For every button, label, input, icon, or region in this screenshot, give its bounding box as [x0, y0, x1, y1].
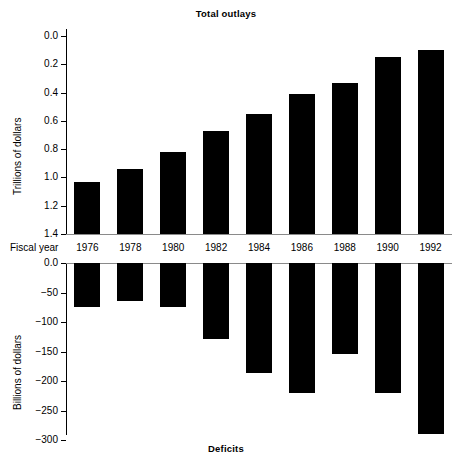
top-bar — [117, 169, 143, 234]
bottom-y-tick-label: −100 — [20, 317, 58, 327]
top-y-tick-label: 0.4 — [28, 88, 58, 98]
bottom-chart-title: Deficits — [166, 443, 286, 454]
top-bar — [418, 50, 444, 234]
top-bar — [160, 152, 186, 234]
top-bar — [246, 114, 272, 234]
bottom-bar — [418, 263, 444, 434]
bottom-bar — [117, 263, 143, 301]
top-y-tick-label: 0.0 — [28, 31, 58, 41]
top-y-axis-line — [66, 29, 67, 235]
bottom-y-tick-label: 0.0 — [20, 258, 58, 268]
top-bar — [332, 83, 358, 234]
bottom-bar — [74, 263, 100, 307]
bottom-bar — [289, 263, 315, 393]
bottom-y-tick-label: −50 — [20, 288, 58, 298]
bottom-y-tick-label: −200 — [20, 376, 58, 386]
top-y-axis-label: Trillions of dollars — [12, 118, 23, 195]
bottom-y-tick — [61, 440, 66, 441]
top-bar — [203, 131, 229, 234]
bottom-y-axis-line — [66, 263, 67, 435]
top-y-tick-label: 1.2 — [28, 201, 58, 211]
year-label: 1992 — [406, 243, 452, 253]
bottom-bar — [246, 263, 272, 373]
bottom-y-tick-label: −300 — [20, 435, 58, 445]
top-y-tick-label: 0.2 — [28, 59, 58, 69]
top-y-tick-label: 0.6 — [28, 116, 58, 126]
bottom-bar — [375, 263, 401, 393]
top-bar — [74, 182, 100, 234]
top-bar — [375, 57, 401, 234]
bottom-y-tick-label: −150 — [20, 347, 58, 357]
bottom-bar — [332, 263, 358, 354]
bottom-y-tick-label: −250 — [20, 406, 58, 416]
top-chart-title: Total outlays — [166, 8, 286, 19]
top-y-tick-label: 0.8 — [28, 144, 58, 154]
bottom-bar — [160, 263, 186, 307]
top-x-axis-line — [66, 234, 452, 235]
chart-figure: Total outlays Trillions of dollars 1.41.… — [0, 0, 452, 462]
fiscal-year-label: Fiscal year — [10, 243, 58, 253]
top-y-tick-label: 1.0 — [28, 172, 58, 182]
top-bar — [289, 94, 315, 234]
bottom-bar — [203, 263, 229, 339]
top-y-tick-label: 1.4 — [28, 229, 58, 239]
